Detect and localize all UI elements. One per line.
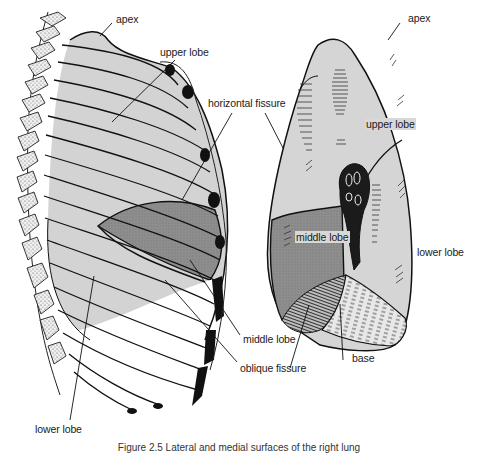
label-lateral-middle-lobe: middle lobe: [243, 333, 296, 345]
label-medial-upper-lobe: upper lobe: [365, 118, 416, 130]
label-horizontal-fissure: horizontal fissure: [208, 97, 286, 109]
label-medial-middle-lobe: middle lobe: [295, 231, 350, 243]
label-medial-apex: apex: [408, 12, 430, 24]
lateral-view: [17, 12, 300, 420]
label-lateral-lower-lobe: lower lobe: [35, 423, 82, 435]
label-lateral-upper-lobe: upper lobe: [160, 46, 209, 58]
lung-diagram: [0, 0, 478, 455]
label-base: base: [352, 352, 374, 364]
label-oblique-fissure: oblique fissure: [240, 362, 306, 374]
medial-view: [267, 23, 411, 368]
figure-caption: Figure 2.5 Lateral and medial surfaces o…: [0, 442, 478, 453]
label-lateral-apex: apex: [116, 13, 138, 25]
label-medial-lower-lobe: lower lobe: [417, 246, 464, 258]
